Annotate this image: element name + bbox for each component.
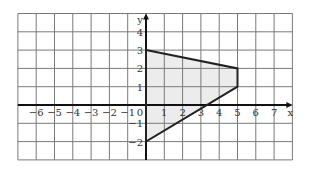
x-tick-label: −3 [84,107,99,118]
x-tick-label: 2 [179,107,185,118]
x-tick-label: −5 [47,107,62,118]
x-tick-label: −1 [120,107,135,118]
x-tick-label: 0 [137,107,143,118]
x-tick-label: 1 [161,107,167,118]
y-tick-label: 4 [137,27,143,38]
y-tick-label: −1 [128,118,143,129]
x-tick-label: 7 [271,107,277,118]
x-axis-label: x [288,107,294,118]
x-tick-label: 3 [198,107,204,118]
y-axis-arrow-icon [143,14,149,20]
x-tick-label: 5 [234,107,240,118]
y-tick-label: −2 [128,137,143,148]
x-tick-label: −6 [29,107,44,118]
x-tick-label: −4 [65,107,80,118]
x-tick-label: 4 [216,107,222,118]
x-tick-label: −2 [102,107,117,118]
x-tick-label: 6 [253,107,259,118]
y-tick-label: 2 [137,63,143,74]
coordinate-plane: −6−5−4−3−2−1012345674321−1−2xy [0,0,310,171]
y-tick-label: 3 [137,45,143,56]
y-axis-label: y [136,14,143,25]
y-tick-label: 1 [137,82,143,93]
